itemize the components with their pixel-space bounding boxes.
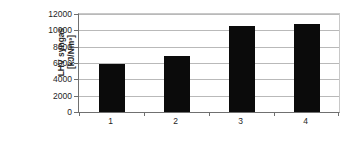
x-axis-tick-label: 4 xyxy=(303,117,308,126)
x-axis-tick xyxy=(338,112,339,116)
x-axis-tick xyxy=(274,112,275,116)
x-axis-tick xyxy=(209,112,210,116)
y-axis-tick-label: 10000 xyxy=(48,26,72,35)
y-axis-tick xyxy=(74,79,79,80)
y-axis-title-line2: [kJ/Nm³] xyxy=(66,28,76,77)
y-axis-tick xyxy=(74,63,79,64)
y-axis-tick-label: 0 xyxy=(67,108,72,117)
x-axis-tick-label: 3 xyxy=(238,117,243,126)
y-axis-tick-label: 6000 xyxy=(53,59,72,68)
x-axis-tick-label: 1 xyxy=(108,117,113,126)
y-axis-title-line1: LHV syngas xyxy=(56,28,66,77)
bar-chart-figure: LHV syngas [kJ/Nm³] 02000400060008000100… xyxy=(0,0,360,142)
plot-area: 020004000600080001000012000 xyxy=(78,13,340,113)
y-axis-tick xyxy=(74,96,79,97)
x-axis-tick xyxy=(144,112,145,116)
bar xyxy=(164,56,190,112)
y-axis-tick-label: 12000 xyxy=(48,10,72,19)
y-axis-tick-label: 4000 xyxy=(53,75,72,84)
x-axis-tick-label: 2 xyxy=(173,117,178,126)
y-axis-tick-label: 8000 xyxy=(53,42,72,51)
y-axis-tick xyxy=(74,30,79,31)
y-axis-tick-label: 2000 xyxy=(53,91,72,100)
bar xyxy=(294,24,320,112)
y-axis-tick xyxy=(74,14,79,15)
bar xyxy=(99,64,125,112)
bar xyxy=(229,26,255,112)
x-axis-tick xyxy=(79,112,80,116)
gridline xyxy=(79,14,339,15)
y-axis-tick xyxy=(74,47,79,48)
